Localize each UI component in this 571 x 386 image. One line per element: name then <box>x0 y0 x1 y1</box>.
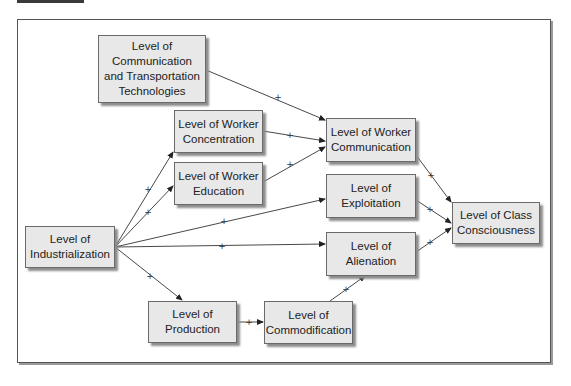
plus-sign: + <box>286 159 294 169</box>
node-class-consciousness: Level of Class Consciousness <box>452 202 540 244</box>
plus-sign: + <box>146 271 154 281</box>
edge-industrialization-education <box>115 186 173 247</box>
plus-sign: + <box>274 92 282 102</box>
plus-sign: + <box>245 317 253 327</box>
node-industrialization: Level of Industrialization <box>25 226 115 268</box>
edge-education-workercomm <box>263 147 325 182</box>
node-commodification: Level of Commodification <box>264 301 353 344</box>
node-production: Level of Production <box>148 301 237 343</box>
node-worker-concentration: Level of Worker Concentration <box>174 110 263 153</box>
edge-industrialization-concentration <box>115 152 173 247</box>
plus-sign: + <box>144 207 152 217</box>
edge-concentration-workercomm <box>263 131 325 141</box>
node-worker-communication: Level of Worker Communication <box>326 118 416 162</box>
plus-sign: + <box>286 130 294 140</box>
node-alienation: Level of Alienation <box>326 232 416 276</box>
plus-sign: + <box>426 237 434 247</box>
plus-sign: + <box>218 241 226 251</box>
node-worker-education: Level of Worker Education <box>174 162 263 205</box>
plus-sign: + <box>220 216 228 226</box>
node-comm-transport-technologies: Level of Communication and Transportatio… <box>98 35 206 103</box>
plus-sign: + <box>426 204 434 214</box>
plus-sign: + <box>342 284 350 294</box>
plus-sign: + <box>427 170 435 180</box>
node-exploitation: Level of Exploitation <box>326 174 416 218</box>
plus-sign: + <box>144 184 152 194</box>
